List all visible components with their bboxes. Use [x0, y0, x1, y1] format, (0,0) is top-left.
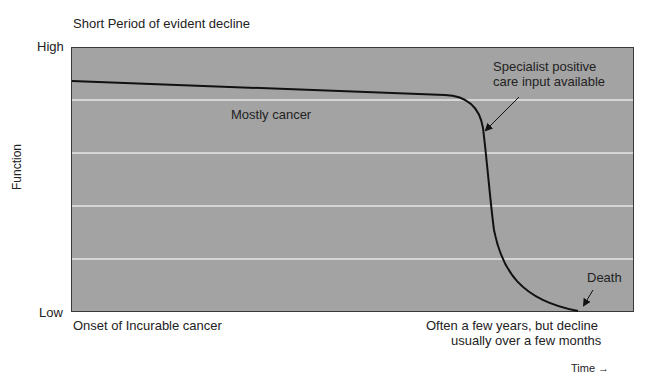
time-label: Time: [571, 362, 595, 374]
specialist-label-line1: Specialist positive: [493, 59, 596, 74]
arrow-right-icon: →: [598, 362, 609, 374]
x-axis-label: Time →: [571, 362, 609, 374]
death-arrow: [584, 290, 593, 305]
decline-curve: [72, 81, 578, 311]
death-label: Death: [587, 270, 622, 285]
specialist-arrow: [486, 97, 519, 130]
mostly-cancer-label: Mostly cancer: [231, 107, 311, 122]
x-tick-onset: Onset of Incurable cancer: [73, 318, 222, 333]
gridlines: [72, 100, 633, 259]
x-tick-end-line1: Often a few years, but decline: [426, 318, 598, 333]
specialist-label-line2: care input available: [493, 74, 605, 89]
x-tick-end-line2: usually over a few months: [451, 333, 601, 348]
